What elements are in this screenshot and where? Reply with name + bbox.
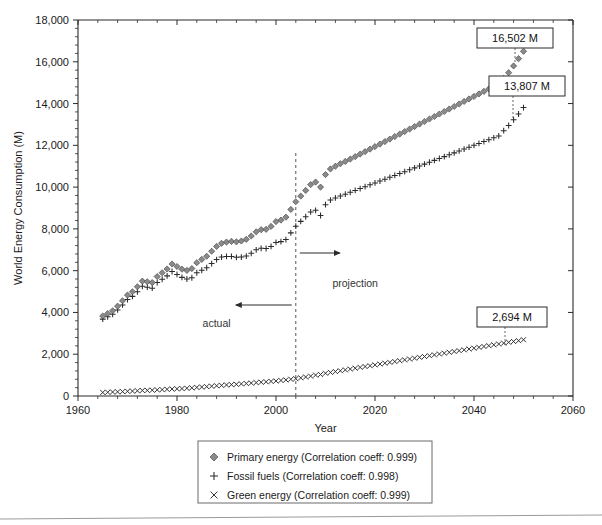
y-tick-label: 4,000 xyxy=(41,306,69,318)
legend-item-label: Green energy (Correlation coeff: 0.999) xyxy=(227,489,410,501)
green-energy-endpoint-label: 2,694 M xyxy=(492,311,532,323)
y-tick-label: 8,000 xyxy=(41,223,69,235)
x-axis-title: Year xyxy=(314,422,337,434)
primary-energy-endpoint-label: 16,502 M xyxy=(492,32,538,44)
y-tick-label: 0 xyxy=(63,390,69,402)
x-tick-label: 2020 xyxy=(363,404,387,416)
y-tick-label: 10,000 xyxy=(35,181,69,193)
legend-item-label: Fossil fuels (Correlation coeff: 0.998) xyxy=(227,470,398,482)
x-tick-label: 2060 xyxy=(561,404,585,416)
y-tick-label: 18,000 xyxy=(35,14,69,26)
y-tick-label: 14,000 xyxy=(35,98,69,110)
y-tick-label: 6,000 xyxy=(41,265,69,277)
chart-figure: 02,0004,0006,0008,00010,00012,00014,0001… xyxy=(0,0,602,525)
y-axis-title: World Energy Consumption (M) xyxy=(12,131,24,285)
world-energy-consumption-chart: 02,0004,0006,0008,00010,00012,00014,0001… xyxy=(0,0,602,525)
legend-item-label: Primary energy (Correlation coeff: 0.999… xyxy=(227,451,417,463)
y-tick-label: 16,000 xyxy=(35,56,69,68)
x-tick-label: 2040 xyxy=(462,404,486,416)
x-tick-label: 2000 xyxy=(264,404,288,416)
actual-label: actual xyxy=(203,317,231,329)
projection-label: projection xyxy=(332,277,378,289)
x-tick-label: 1980 xyxy=(165,404,189,416)
fossil-fuels-endpoint-label: 13,807 M xyxy=(504,80,550,92)
x-tick-label: 1960 xyxy=(66,404,90,416)
chart-legend: Primary energy (Correlation coeff: 0.999… xyxy=(198,441,432,503)
y-tick-label: 12,000 xyxy=(35,139,69,151)
y-tick-label: 2,000 xyxy=(41,348,69,360)
